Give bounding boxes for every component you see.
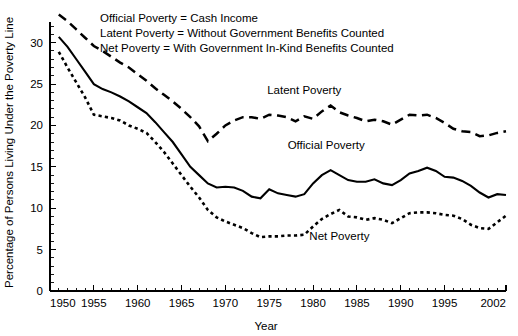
x-tick-label: 1960 — [125, 297, 151, 309]
chart-canvas: Percentage of Persons Living Under the P… — [0, 0, 518, 336]
legend-line-latent: Latent Poverty = Without Government Bene… — [100, 27, 384, 39]
x-axis-title: Year — [254, 320, 277, 332]
x-tick-label: 1995 — [432, 297, 458, 309]
y-axis-title: Percentage of Persons Living Under the P… — [3, 17, 15, 288]
y-tick-label: 10 — [30, 202, 43, 214]
x-tick-label: 2002 — [480, 297, 506, 309]
x-tick-label: 1985 — [344, 297, 370, 309]
poverty-line-chart: Percentage of Persons Living Under the P… — [0, 0, 518, 336]
x-tick-label: 1975 — [256, 297, 282, 309]
x-tick-label: 1965 — [169, 297, 195, 309]
y-axis-tick-labels: 051015202530 — [30, 37, 43, 297]
x-tick-label: 1970 — [213, 297, 239, 309]
x-axis-tick-labels: 1950195519601965197019751980198519901995… — [50, 297, 506, 309]
y-tick-label: 30 — [30, 37, 43, 49]
series-annotation-official-poverty: Official Poverty — [288, 139, 365, 151]
legend-line-official: Official Poverty = Cash Income — [100, 12, 258, 24]
series-line-net-poverty — [59, 52, 506, 237]
x-tick-label: 1980 — [300, 297, 326, 309]
y-tick-label: 5 — [37, 244, 43, 256]
y-tick-label: 0 — [37, 285, 43, 297]
series-annotation-latent-poverty: Latent Poverty — [267, 84, 341, 96]
y-tick-label: 25 — [30, 78, 43, 90]
y-tick-label: 15 — [30, 161, 43, 173]
x-axis-ticks — [50, 285, 506, 291]
y-tick-label: 20 — [30, 119, 43, 131]
x-tick-label: 1990 — [388, 297, 414, 309]
x-tick-label: 1955 — [81, 297, 107, 309]
series-annotation-net-poverty: Net Poverty — [309, 230, 369, 242]
legend-line-net: Net Poverty = With Government In-Kind Be… — [100, 42, 394, 54]
x-tick-label: 1950 — [50, 297, 76, 309]
y-axis-ticks — [50, 26, 56, 291]
